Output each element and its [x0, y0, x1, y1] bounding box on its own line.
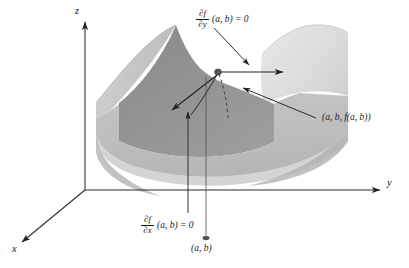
- partial-y-denominator: ∂y: [197, 20, 207, 30]
- surface-point-label: (a, b, f(a, b)): [322, 113, 371, 123]
- partial-x-condition: (a, b) = 0: [157, 220, 194, 230]
- partial-derivative-x-annotation: ∂f ∂x (a, b) = 0: [141, 215, 194, 236]
- partial-x-denominator: ∂x: [142, 226, 152, 236]
- partial-x-fraction: ∂f ∂x: [141, 215, 154, 236]
- saddle-surface: [96, 25, 348, 196]
- base-point-marker: [203, 236, 209, 240]
- surface-right-lobe: [261, 25, 348, 105]
- partial-y-condition: (a, b) = 0: [212, 14, 249, 24]
- y-axis-label: y: [387, 178, 392, 189]
- x-axis-label: x: [12, 244, 17, 255]
- partial-x-numerator: ∂f: [143, 215, 152, 225]
- base-point-label: (a, b): [191, 244, 212, 254]
- z-axis-label: z: [75, 6, 79, 17]
- x-axis: [22, 190, 85, 242]
- diagram-canvas: [0, 0, 409, 268]
- saddle-surface-diagram: z y x ∂f ∂y (a, b) = 0 ∂f ∂x (a, b) = 0 …: [0, 0, 409, 268]
- partial-y-fraction: ∂f ∂y: [196, 9, 209, 30]
- partial-y-numerator: ∂f: [198, 9, 207, 19]
- partial-derivative-y-annotation: ∂f ∂y (a, b) = 0: [196, 9, 249, 30]
- critical-point-marker: [215, 69, 222, 75]
- partial-y-leader: [214, 28, 249, 65]
